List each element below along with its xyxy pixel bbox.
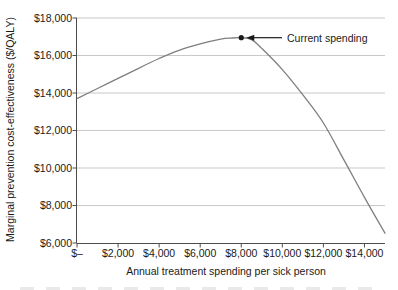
current-spending-marker [239, 35, 244, 40]
x-axis-title: Annual treatment spending per sick perso… [72, 265, 380, 277]
chart-figure: $6,000$8,000$10,000$12,000$14,000$16,000… [0, 0, 398, 290]
x-tick-labels: $–$2,000$4,000$6,000$8,000$10,000$12,000… [71, 247, 383, 259]
annotation-label: Current spending [287, 32, 368, 44]
y-axis-title: Marginal prevention cost-effectiveness (… [4, 11, 17, 249]
x-tick-label: $12,000 [304, 247, 342, 259]
x-tick-label: $6,000 [184, 247, 216, 259]
y-tick-labels: $6,000$8,000$10,000$12,000$14,000$16,000… [34, 12, 72, 249]
x-tick-label: $8,000 [225, 247, 257, 259]
y-tick-label: $10,000 [34, 162, 72, 174]
series-line-marginal-cost-effectiveness [77, 38, 385, 234]
x-tick-label: $– [71, 247, 83, 259]
y-tick-label: $16,000 [34, 49, 72, 61]
y-tick-label: $8,000 [40, 199, 72, 211]
x-tick-label: $2,000 [102, 247, 134, 259]
y-tick-label: $12,000 [34, 124, 72, 136]
annotation-arrowhead [246, 35, 254, 41]
y-tick-label: $6,000 [40, 237, 72, 249]
x-tick-label: $4,000 [143, 247, 175, 259]
tick-marks [73, 18, 365, 248]
series-lines [77, 38, 385, 234]
y-tick-label: $18,000 [34, 12, 72, 24]
gridlines [77, 18, 385, 206]
x-tick-label: $14,000 [345, 247, 383, 259]
y-tick-label: $14,000 [34, 87, 72, 99]
x-tick-label: $10,000 [263, 247, 301, 259]
